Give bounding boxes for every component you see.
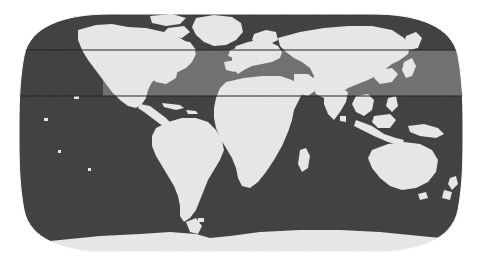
screenshot-root	[0, 0, 482, 266]
map-body	[0, 0, 482, 266]
world-map-svg	[0, 0, 482, 266]
world-map-figure	[0, 0, 482, 266]
paper-grain-overlay	[0, 0, 482, 266]
